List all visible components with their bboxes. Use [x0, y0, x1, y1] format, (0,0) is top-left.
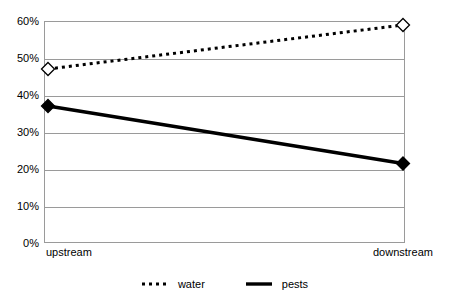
- plot-area: [44, 21, 405, 243]
- y-axis-tick-50: 50%: [0, 52, 39, 64]
- solid-line-icon: [245, 279, 273, 289]
- y-axis-tick-label: 40%: [17, 89, 39, 101]
- y-axis-tick-30: 30%: [0, 126, 39, 138]
- x-axis-tick-label: upstream: [46, 246, 92, 258]
- legend-entry-pests[interactable]: pests: [245, 278, 308, 290]
- gridline-20: [45, 170, 404, 171]
- y-axis-tick-20: 20%: [0, 163, 39, 175]
- x-axis-tick-downstream: downstream: [373, 246, 433, 259]
- y-axis-tick-label: 0%: [23, 237, 39, 249]
- gridline-10: [45, 207, 404, 208]
- x-axis-tick-label: downstream: [373, 246, 433, 258]
- y-axis-tick-60: 60%: [0, 15, 39, 27]
- y-axis-tick-0: 0%: [0, 237, 39, 249]
- line-chart: 60% 50% 40% 30% 20% 10% 0% upstream down…: [0, 0, 449, 304]
- dotted-line-icon: [141, 279, 169, 289]
- y-axis-tick-40: 40%: [0, 89, 39, 101]
- y-axis-tick-label: 10%: [17, 200, 39, 212]
- y-axis-tick-label: 50%: [17, 52, 39, 64]
- gridline-50: [45, 59, 404, 60]
- x-axis-tick-upstream: upstream: [46, 246, 92, 259]
- y-axis-tick-label: 20%: [17, 163, 39, 175]
- y-axis-tick-label: 30%: [17, 126, 39, 138]
- y-axis-tick-label: 60%: [17, 15, 39, 27]
- legend-label-pests: pests: [282, 278, 308, 290]
- legend: water pests: [0, 272, 449, 296]
- gridline-30: [45, 133, 404, 134]
- y-axis-tick-10: 10%: [0, 200, 39, 212]
- gridline-40: [45, 96, 404, 97]
- legend-entry-water[interactable]: water: [141, 278, 205, 290]
- legend-label-water: water: [178, 278, 205, 290]
